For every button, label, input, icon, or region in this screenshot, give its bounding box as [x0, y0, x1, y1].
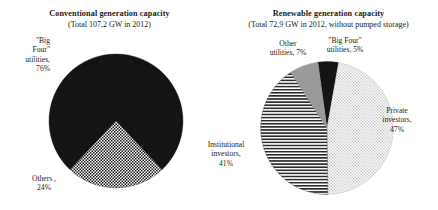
chart-subtitle-renewable: (Total 72,9 GW in 2012, without pumped s… — [219, 20, 438, 30]
chart-panel-conventional: Conventional generation capacity (Total … — [0, 0, 219, 210]
chart-title-conventional: Conventional generation capacity — [0, 9, 219, 19]
pie-label-big-four-utilities: "Big Four" utilities, 5% — [309, 36, 381, 55]
pie-svg-conventional — [48, 53, 184, 189]
chart-title-renewable: Renewable generation capacity — [219, 9, 438, 19]
pie-label-others: Others , 24% — [16, 174, 72, 193]
pie-label-big-four-utilities: "Big Four" utilities, 76% — [0, 36, 50, 74]
pie-label-private-investors: Private investors, 47% — [369, 106, 425, 134]
chart-subtitle-conventional: (Total 107,2 GW in 2012) — [0, 20, 219, 30]
chart-panel-renewable: Renewable generation capacity (Total 72,… — [219, 0, 438, 210]
pie-label-institutional-investors: Institutional investors, 41% — [191, 140, 261, 168]
pie-chart-conventional — [48, 53, 184, 189]
